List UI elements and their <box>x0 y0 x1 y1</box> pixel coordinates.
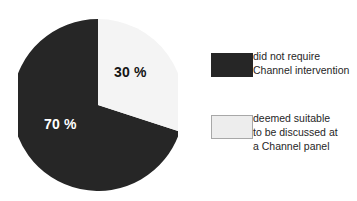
pie-label-light-slice: 30 % <box>114 64 147 80</box>
legend-label-light: deemed suitable to be discussed at a Cha… <box>253 111 357 153</box>
legend-label-dark-line-2: Channel intervention <box>253 63 357 77</box>
legend-swatch-light <box>211 115 253 139</box>
pie-label-dark-slice: 70 % <box>44 116 77 132</box>
legend-label-dark-line-1: did not require <box>253 49 357 63</box>
legend-label-light-line-2: to be discussed at <box>253 125 357 139</box>
legend-label-light-line-1: deemed suitable <box>253 111 357 125</box>
pie-svg <box>18 19 178 191</box>
legend-label-dark: did not require Channel intervention <box>253 49 357 77</box>
pie-chart-graphic: 30 % 70 % <box>18 19 178 191</box>
legend-label-light-line-3: a Channel panel <box>253 139 357 153</box>
legend-swatch-dark <box>211 53 253 77</box>
pie-chart-figure: 30 % 70 % did not require Channel interv… <box>0 0 357 201</box>
